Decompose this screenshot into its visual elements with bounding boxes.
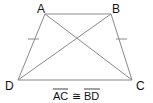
diagonal-ac	[45, 14, 132, 80]
vertex-label-c: C	[136, 79, 145, 93]
vertex-label-b: B	[112, 2, 120, 16]
segment-ac: AC	[53, 90, 68, 102]
vertex-label-a: A	[37, 2, 45, 16]
trapezoid-diagram: A B C D AC ≅ BD	[0, 0, 153, 103]
vertex-label-d: D	[5, 79, 14, 93]
side-bc	[111, 14, 132, 80]
congruent-symbol: ≅	[72, 90, 81, 102]
segment-bd: BD	[84, 90, 99, 102]
